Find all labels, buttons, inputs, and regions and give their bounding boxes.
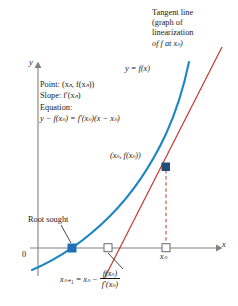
formula-denominator: f′(xₙ) [100,278,120,289]
formula-fraction: f(xₙ) f′(xₙ) [100,268,120,289]
tangency-point-marker [162,163,171,172]
x-axis-label: x [222,240,226,249]
formula-numerator: f(xₙ) [100,268,120,278]
tangent-note-line-4: of f at xₙ) [152,39,193,49]
tangent-note-line-2: (graph of [152,18,193,28]
x-n-tick-label: xₙ [160,252,167,261]
y-axis-label: y [29,58,33,67]
equation-body: y − f(xₙ) = f′(xₙ)(x − xₙ) [40,113,120,124]
formula-lhs: xₙ₊₁ = xₙ − [60,275,98,284]
x-n-plus-1-marker [104,244,112,252]
point-line: Point: (xₙ, f(xₙ)) [40,79,120,90]
slope-line: Slope: f′(xₙ) [40,90,120,101]
root-leader-line [61,225,71,243]
origin-label: 0 [22,250,26,259]
point-slope-equation-block: Point: (xₙ, f(xₙ)) Slope: f′(xₙ) Equatio… [40,79,120,125]
curve-equation-label: y = f(x) [125,64,150,73]
equation-heading: Equation: [40,102,120,113]
y-axis-arrow [35,62,42,69]
tangent-note-line-1: Tangent line [152,8,193,18]
x-n-marker [162,244,170,252]
tangent-note-line-3: linearization [152,28,193,38]
root-sought-label: Root sought [28,215,68,224]
newton-iteration-formula: xₙ₊₁ = xₙ − f(xₙ) f′(xₙ) [60,268,120,289]
tangent-line-annotation: Tangent line (graph of linearization of … [152,8,193,49]
root-sought-marker [68,244,77,253]
tangency-point-label: (xₙ, f(xₙ)) [110,150,141,160]
